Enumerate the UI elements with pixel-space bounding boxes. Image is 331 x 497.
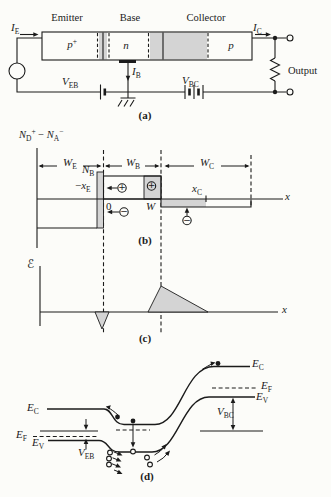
electron-dot xyxy=(216,361,221,366)
caption-d: (d) xyxy=(140,471,153,482)
panel-c-field-profile xyxy=(40,266,278,329)
minus-sign: − xyxy=(120,207,128,216)
bc-field-triangle xyxy=(148,286,208,312)
bc-depletion-region xyxy=(150,33,207,60)
c-x-axis-label: x xyxy=(282,304,287,315)
collector-doping-label: p xyxy=(228,40,234,51)
panel-a-schematic xyxy=(9,32,293,107)
figure-graphics xyxy=(0,0,331,497)
veb-band-label: VEB xyxy=(78,447,94,458)
hole-circle xyxy=(148,462,153,467)
origin-label: 0 xyxy=(106,201,112,212)
emitter-region-label: Emitter xyxy=(51,13,83,24)
electron-flow-arrows xyxy=(106,361,216,415)
junction-dot xyxy=(273,36,277,40)
veb-dimension-arrow xyxy=(84,419,89,450)
battery-veb xyxy=(101,85,105,100)
hole-collection-arrows xyxy=(155,444,171,462)
collector-region-label: Collector xyxy=(186,13,225,24)
hole-circle xyxy=(145,455,150,460)
bc-depletion-strip-collector xyxy=(161,199,206,207)
output-resistor xyxy=(271,58,280,81)
hole-circle xyxy=(131,449,136,454)
ground-icon xyxy=(118,98,136,107)
eb-field-triangle xyxy=(95,312,109,329)
hole-injection-arrows xyxy=(112,451,123,474)
transistor-figure: Emitter Base Collector IE p+ n p IC VEB … xyxy=(0,0,331,497)
caption-b: (b) xyxy=(138,235,151,246)
veb-label: VEB xyxy=(62,76,78,87)
we-label: WE xyxy=(63,157,77,168)
ec-right-label: EC xyxy=(252,358,264,369)
caption-c: (c) xyxy=(139,333,151,344)
vbc-label: VBC xyxy=(182,75,199,86)
ie-label: IE xyxy=(11,22,19,33)
nb-label: NB xyxy=(82,164,94,175)
output-label: Output xyxy=(288,66,317,77)
plus-sign: + xyxy=(148,181,156,190)
caption-a: (a) xyxy=(139,110,152,121)
hole-circle xyxy=(107,456,112,461)
ib-label: IB xyxy=(132,66,141,77)
output-terminal-top xyxy=(287,35,293,41)
ie-current-arrow xyxy=(20,32,39,36)
eb-depletion-strip xyxy=(97,172,104,228)
ev-left-label: EV xyxy=(32,437,44,448)
wc-label: WC xyxy=(200,157,214,168)
electron-dot xyxy=(115,415,120,420)
ef-left-label: EF xyxy=(16,429,27,440)
wb-label: WB xyxy=(126,157,140,168)
base-region-label: Base xyxy=(120,13,140,24)
source-circle xyxy=(9,63,25,79)
hole-circle xyxy=(108,450,113,455)
ec-left-label: EC xyxy=(27,402,39,413)
ib-current-arrow xyxy=(126,76,131,81)
xc-label: xC xyxy=(192,183,202,194)
plus-sign: + xyxy=(118,183,126,192)
output-terminal-bottom xyxy=(287,89,293,95)
base-doping-label: n xyxy=(123,40,129,51)
emitter-doping-label: p+ xyxy=(67,39,77,50)
vbc-band-label: VBC xyxy=(217,406,234,417)
junction-dot xyxy=(273,90,277,94)
base-contact xyxy=(119,60,136,63)
ic-label: IC xyxy=(253,22,262,33)
ev-right-label: EV xyxy=(256,391,268,402)
minus-xe-label: −xE xyxy=(75,180,91,191)
field-axis-label: ℰ xyxy=(27,258,34,270)
hole-circle xyxy=(107,462,112,467)
recombination-arrow xyxy=(131,425,136,448)
doping-axis-label: ND+ − NA− xyxy=(19,130,64,141)
minus-sign: − xyxy=(183,216,191,225)
w-point-label: W xyxy=(146,201,155,212)
b-x-axis-label: x xyxy=(285,191,290,202)
electron-dot xyxy=(131,419,136,424)
